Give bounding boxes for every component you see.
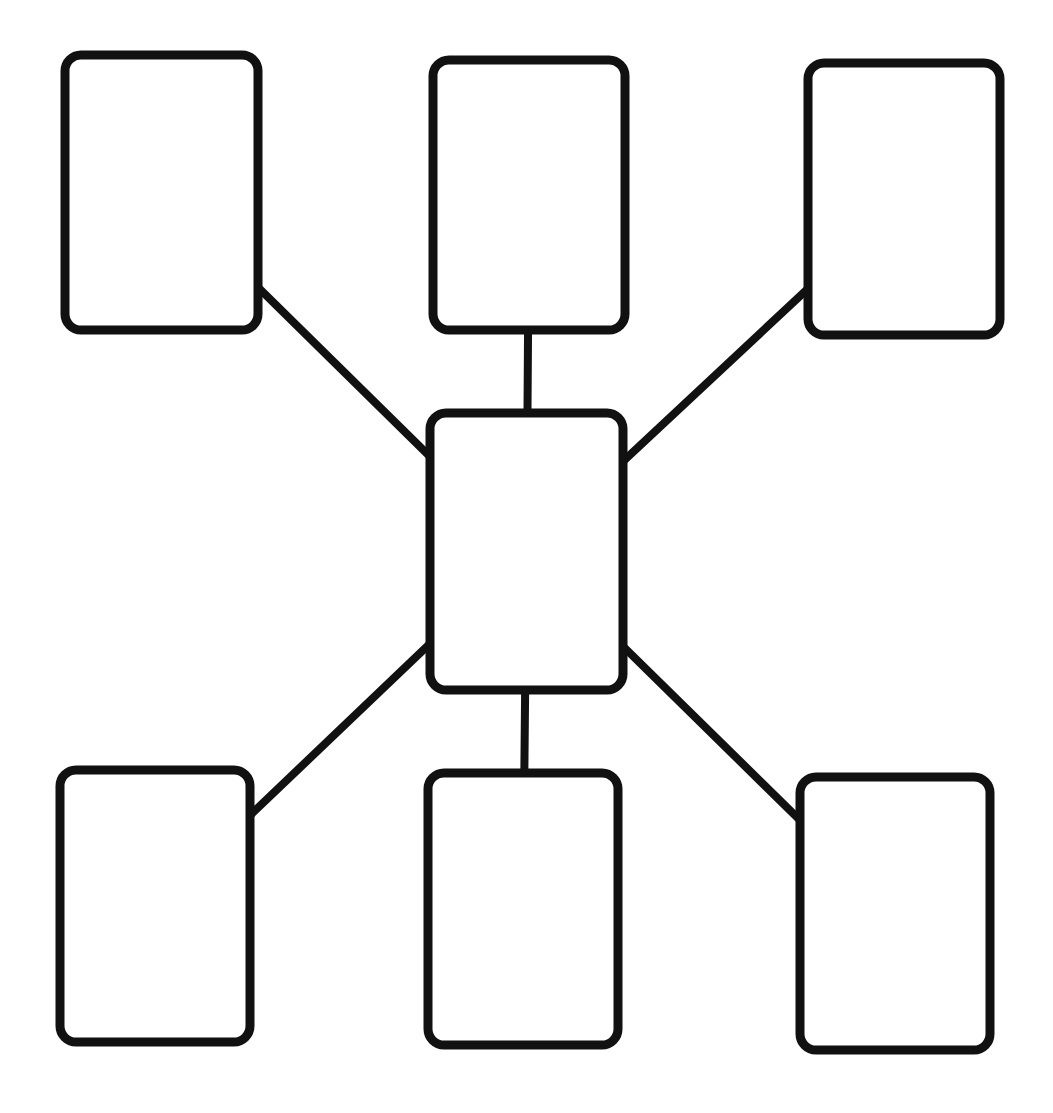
- node-bottom-left: [60, 770, 250, 1042]
- mind-map-diagram: [0, 0, 1053, 1113]
- node-box-bottom-right: [800, 777, 990, 1050]
- node-top-left: [65, 55, 258, 330]
- node-center: [430, 413, 623, 690]
- node-bottom-right: [800, 777, 990, 1050]
- node-box-top-right: [808, 63, 1000, 335]
- node-box-bottom-left: [60, 770, 250, 1042]
- diagram-canvas: [0, 0, 1053, 1113]
- node-box-top-left: [65, 55, 258, 330]
- node-bottom-middle: [428, 773, 618, 1045]
- node-top-middle: [433, 60, 625, 330]
- node-box-center: [430, 413, 623, 690]
- node-box-bottom-middle: [428, 773, 618, 1045]
- node-top-right: [808, 63, 1000, 335]
- node-box-top-middle: [433, 60, 625, 330]
